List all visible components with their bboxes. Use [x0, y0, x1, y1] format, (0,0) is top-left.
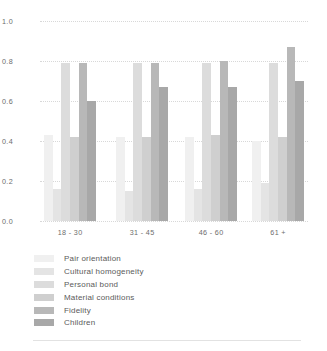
legend-swatch	[34, 281, 54, 288]
legend-label: Pair orientation	[64, 254, 121, 263]
y-axis-tick-label: 0.2	[0, 177, 13, 186]
bar	[70, 137, 79, 221]
bar	[79, 63, 88, 221]
legend-item: Material conditions	[34, 291, 284, 304]
plot-area: 1.00.80.60.40.20.0	[40, 21, 308, 221]
y-axis-tick-label: 0.6	[0, 97, 13, 106]
legend-label: Cultural homogeneity	[64, 267, 144, 276]
bar-group	[185, 21, 237, 221]
bar-chart-figure: 1.00.80.60.40.20.0 Pair orientationCultu…	[0, 0, 327, 351]
chart-legend: Pair orientationCultural homogeneityPers…	[34, 252, 284, 329]
bar	[61, 63, 70, 221]
y-axis-tick-label: 0.0	[0, 217, 13, 226]
x-axis-tick-label: 18 - 30	[30, 228, 110, 237]
bar	[133, 63, 142, 221]
legend-label: Fidelity	[64, 306, 91, 315]
bar	[185, 137, 194, 221]
bar-group	[116, 21, 168, 221]
bar	[287, 47, 296, 221]
bar	[278, 137, 287, 221]
legend-swatch	[34, 294, 54, 301]
bar-group	[44, 21, 96, 221]
x-axis-tick-label: 61 +	[238, 228, 318, 237]
legend-label: Personal bond	[64, 280, 118, 289]
bar	[252, 141, 261, 221]
y-axis-tick-label: 0.4	[0, 137, 13, 146]
legend-item: Personal bond	[34, 278, 284, 291]
bar-group	[252, 21, 304, 221]
bottom-divider	[33, 340, 301, 341]
legend-item: Children	[34, 316, 284, 329]
legend-label: Children	[64, 318, 95, 327]
legend-swatch	[34, 255, 54, 262]
bar	[151, 63, 160, 221]
bar	[269, 63, 278, 221]
bar	[116, 137, 125, 221]
legend-item: Pair orientation	[34, 252, 284, 265]
bar	[142, 137, 151, 221]
bar	[202, 63, 211, 221]
bar	[44, 135, 53, 221]
bar	[261, 183, 270, 221]
x-axis-tick-label: 31 - 45	[102, 228, 182, 237]
gridline	[40, 221, 308, 222]
y-axis-tick-label: 0.8	[0, 57, 13, 66]
bar	[211, 135, 220, 221]
legend-item: Fidelity	[34, 304, 284, 317]
bar	[295, 81, 304, 221]
bar	[228, 87, 237, 221]
legend-label: Material conditions	[64, 293, 135, 302]
bar	[220, 61, 229, 221]
bar	[125, 191, 134, 221]
legend-swatch	[34, 319, 54, 326]
legend-swatch	[34, 307, 54, 314]
bar	[159, 87, 168, 221]
y-axis-tick-label: 1.0	[0, 17, 13, 26]
bar	[53, 189, 62, 221]
bar	[87, 101, 96, 221]
legend-swatch	[34, 268, 54, 275]
legend-item: Cultural homogeneity	[34, 265, 284, 278]
bar	[194, 189, 203, 221]
